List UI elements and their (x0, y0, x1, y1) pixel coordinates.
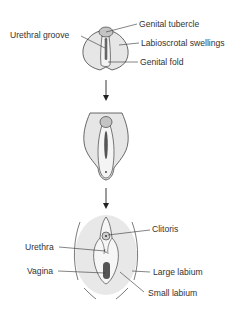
label-urethral-groove: Urethral groove (10, 30, 69, 40)
urethral-groove-shape (105, 38, 108, 60)
label-genital-fold: Genital fold (140, 57, 184, 67)
diagram-canvas: Genital tubercle Urethral groove Labiosc… (0, 0, 246, 315)
vagina-shape (103, 262, 110, 279)
label-labioscrotal-swellings: Labioscrotal swellings (141, 38, 225, 48)
label-urethra: Urethra (25, 242, 54, 252)
groove-shape (104, 131, 108, 159)
label-clitoris: Clitoris (152, 224, 178, 234)
down-arrow-1 (103, 80, 109, 101)
label-small-labium: Small labium (148, 288, 197, 298)
opening-dot (105, 171, 107, 173)
tubercle-shape (100, 117, 112, 128)
down-arrow-2 (103, 188, 109, 209)
label-vagina: Vagina (27, 266, 53, 276)
stage-indifferent: Genital tubercle Urethral groove Labiosc… (10, 19, 225, 70)
label-large-labium: Large labium (153, 267, 203, 277)
stage-intermediate (84, 113, 128, 180)
stage-adult: Clitoris Urethra Vagina Large labium Sma… (25, 215, 203, 299)
label-genital-tubercle: Genital tubercle (139, 19, 199, 29)
